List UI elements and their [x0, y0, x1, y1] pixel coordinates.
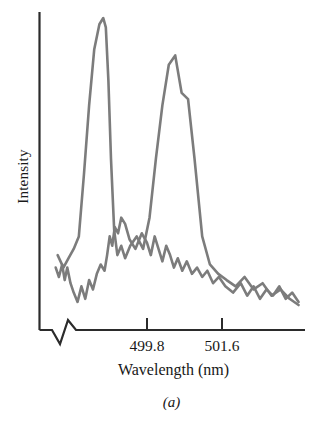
data-traces — [56, 18, 299, 305]
y-axis-title: Intensity — [15, 112, 32, 242]
spectrum-figure: Intensity 499.8 501.6 Wavelength (nm) (a… — [0, 0, 323, 432]
x-axis-title: Wavelength (nm) — [0, 361, 323, 379]
x-axis-line-with-break — [40, 320, 306, 344]
figure-subcaption: (a) — [0, 394, 323, 411]
x-tick-label-1: 501.6 — [205, 337, 240, 355]
series-line-trace-1 — [56, 218, 299, 302]
x-tick-label-0: 499.8 — [130, 337, 165, 355]
page-crop-edge — [0, 426, 323, 432]
